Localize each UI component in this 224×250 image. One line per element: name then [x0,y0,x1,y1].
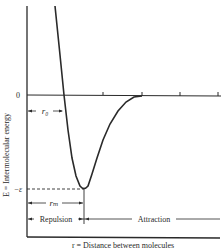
rm-label: rₘ [49,198,58,208]
y-axis-label: E = Intermolecular energy [2,113,11,197]
arrow-left-icon [28,218,32,221]
x-axis-bottom [27,237,220,238]
r0-label: r₀ [42,106,49,116]
attraction-label: Attraction [138,215,170,224]
epsilon-label: −ε [14,185,23,194]
potential-energy-diagram: 0 −ε r₀ rₘ Repulsion Attraction r = Dist… [0,0,224,250]
arrow-right-icon [79,202,83,205]
zero-energy-line [27,95,221,96]
arrow-left-icon [85,218,89,221]
arrow-right-icon [79,218,83,221]
arrow-right-icon [59,110,63,113]
x-axis-label: r = Distance between molecules [72,241,174,250]
energy-curve [55,6,142,189]
arrow-left-icon [28,110,32,113]
zero-label: 0 [16,91,20,100]
arrow-left-icon [28,202,32,205]
repulsion-label: Repulsion [40,215,72,224]
